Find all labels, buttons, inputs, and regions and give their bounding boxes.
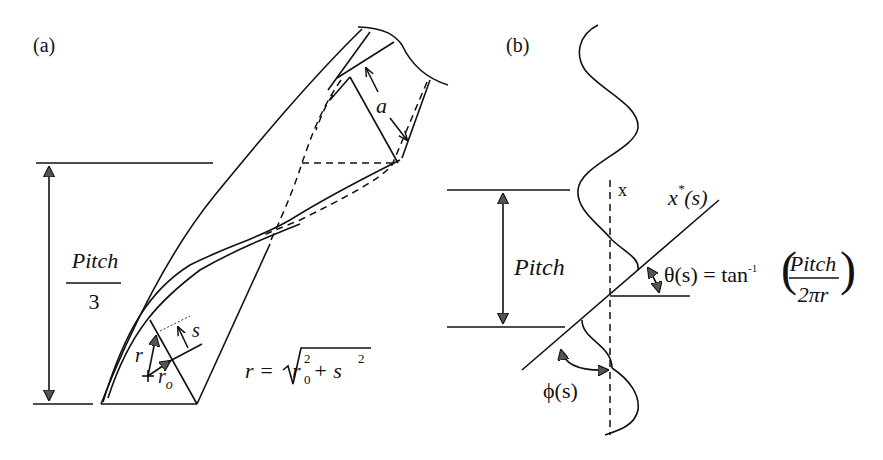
helix-curve (578, 25, 638, 435)
panel-a: (a) Pitch 3 (33, 27, 448, 404)
s-arrow (178, 327, 188, 348)
panel-b: (b) x x*(s) Pitch θ(s) = tan-1 ( Pitch 2… (447, 25, 856, 435)
panel-a-label: (a) (33, 34, 55, 57)
a-label: a (376, 93, 387, 118)
s-label: s (192, 319, 200, 341)
phi-angle-arc (561, 350, 608, 370)
panel-b-label: (b) (506, 34, 529, 57)
x-axis-label: x (618, 180, 627, 200)
svg-text:0: 0 (304, 372, 311, 387)
phi-label: ϕ(s) (543, 378, 578, 403)
s-dotted-guide (160, 316, 190, 331)
theta-lhs: θ(s) = tan-1 (664, 262, 757, 287)
svg-text:2: 2 (358, 351, 365, 366)
right-paren: ) (840, 242, 856, 296)
xstar-label: x*(s) (667, 181, 707, 210)
theta-equation: θ(s) = tan-1 ( Pitch 2πr ) (664, 242, 856, 307)
pitch-numerator: Pitch (71, 248, 118, 273)
equation-plus-s: + s (313, 358, 342, 383)
svg-text:2: 2 (304, 351, 311, 366)
a-arrow-down (390, 118, 407, 140)
pitch-third-dimension (33, 163, 213, 404)
diagram-canvas: (a) Pitch 3 (0, 0, 883, 460)
theta-angle-arc (648, 268, 659, 292)
radius-equation: r = r 2 0 + s 2 (245, 348, 371, 387)
r0-label: ro (158, 365, 173, 392)
r-label: r (135, 344, 143, 366)
theta-numerator: Pitch (789, 251, 836, 276)
pitch-denominator: 3 (89, 289, 100, 314)
pitch-label: Pitch (513, 254, 565, 280)
r-arrow (148, 336, 156, 376)
equation-r0: r (292, 358, 301, 383)
equation-lhs: r = (245, 358, 274, 383)
a-arrow-up (366, 68, 378, 92)
theta-denominator: 2πr (798, 282, 829, 307)
